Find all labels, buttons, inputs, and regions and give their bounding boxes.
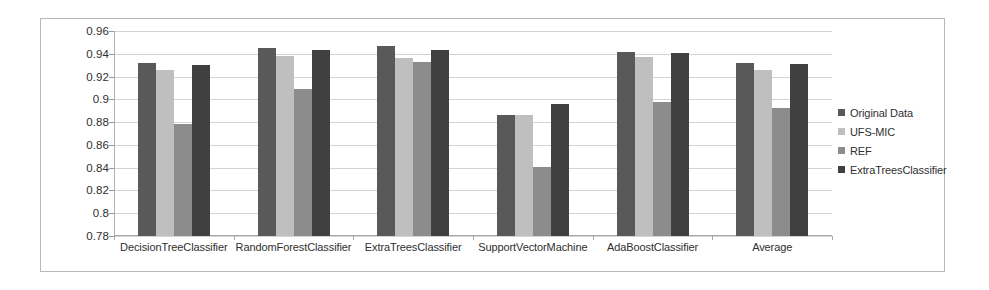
y-axis-tick-label: 0.8	[93, 207, 109, 219]
legend-label: REF	[850, 145, 872, 157]
x-axis-tick-label: Average	[712, 241, 832, 253]
bar-group	[114, 31, 234, 236]
bar	[533, 167, 551, 236]
x-axis-tick-mark	[712, 236, 713, 240]
y-axis-tick-label: 0.84	[86, 162, 109, 174]
y-axis-labels: 0.960.940.920.90.880.860.840.820.80.78	[41, 31, 109, 236]
bar	[754, 70, 772, 236]
bar	[617, 52, 635, 237]
legend-swatch-icon	[838, 128, 845, 135]
x-axis-tick-mark	[593, 236, 594, 240]
chart-legend: Original DataUFS-MICREFExtraTreesClassif…	[838, 103, 942, 179]
bar	[790, 64, 808, 236]
bar	[671, 53, 689, 236]
x-axis-tick-label: ExtraTreesClassifier	[353, 241, 473, 253]
plot-area	[114, 31, 832, 236]
legend-item[interactable]: ExtraTreesClassifier	[838, 160, 942, 179]
bar-group	[712, 31, 832, 236]
bar	[772, 108, 790, 236]
bar	[192, 65, 210, 236]
y-axis-tick-label: 0.9	[93, 93, 109, 105]
bar	[515, 115, 533, 236]
bar	[497, 115, 515, 236]
bar	[312, 50, 330, 236]
bar-groups	[114, 31, 832, 236]
bars	[114, 31, 234, 236]
bar	[551, 104, 569, 236]
bar	[413, 62, 431, 236]
bar	[395, 58, 413, 236]
legend-item[interactable]: REF	[838, 141, 942, 160]
y-axis-tick-label: 0.88	[86, 116, 109, 128]
legend-swatch-icon	[838, 109, 845, 116]
legend-swatch-icon	[838, 166, 845, 173]
bar-group	[234, 31, 354, 236]
bars	[712, 31, 832, 236]
legend-label: Original Data	[850, 107, 913, 119]
legend-label: UFS-MIC	[850, 126, 895, 138]
y-axis-tick-label: 0.94	[86, 48, 109, 60]
x-axis-labels: DecisionTreeClassifierRandomForestClassi…	[114, 241, 832, 253]
legend-swatch-icon	[838, 147, 845, 154]
x-axis-tick-label: DecisionTreeClassifier	[114, 241, 234, 253]
y-axis-tick-label: 0.78	[86, 230, 109, 242]
x-axis-tick-mark	[114, 236, 115, 240]
x-axis-tick-label: SupportVectorMachine	[473, 241, 593, 253]
x-axis-tick-label: AdaBoostClassifier	[593, 241, 713, 253]
bar	[653, 102, 671, 236]
bars	[593, 31, 713, 236]
bar-group	[473, 31, 593, 236]
y-axis-tick-label: 0.82	[86, 184, 109, 196]
bars	[473, 31, 593, 236]
bar	[377, 46, 395, 236]
x-axis-tick-mark	[473, 236, 474, 240]
x-axis-tick-mark	[353, 236, 354, 240]
legend-item[interactable]: Original Data	[838, 103, 942, 122]
bars	[234, 31, 354, 236]
x-axis-tick-label: RandomForestClassifier	[234, 241, 354, 253]
bar	[138, 63, 156, 236]
bars	[353, 31, 473, 236]
chart-container: 0.960.940.920.90.880.860.840.820.80.78 D…	[40, 18, 945, 272]
bar	[736, 63, 754, 236]
x-axis-tick-mark	[832, 236, 833, 240]
x-axis-tick-mark	[234, 236, 235, 240]
bar	[635, 57, 653, 236]
y-axis-tick-label: 0.96	[86, 25, 109, 37]
y-axis-tick-label: 0.86	[86, 139, 109, 151]
bar-group	[353, 31, 473, 236]
bar	[276, 56, 294, 236]
bar	[431, 50, 449, 236]
bar-group	[593, 31, 713, 236]
bar	[258, 48, 276, 236]
bar	[156, 70, 174, 236]
legend-item[interactable]: UFS-MIC	[838, 122, 942, 141]
y-axis-tick-label: 0.92	[86, 71, 109, 83]
legend-label: ExtraTreesClassifier	[850, 164, 947, 176]
bar	[174, 124, 192, 236]
bar	[294, 89, 312, 236]
